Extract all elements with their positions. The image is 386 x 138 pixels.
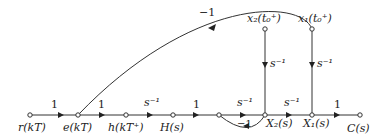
- gain-e-h: 1: [98, 98, 105, 111]
- gain-x2i-X2: s⁻¹: [270, 57, 286, 70]
- label-e: e(kT): [63, 121, 92, 134]
- gain-x1i-X1: s⁻¹: [317, 57, 333, 70]
- signal-flow-graph: r(kT) e(kT) h(kT⁺) H(s) X₂(s) X₁(s) C(s)…: [0, 0, 386, 138]
- node-C: [358, 113, 362, 117]
- node-x2-initial: [263, 27, 267, 31]
- arrow-icon: [193, 112, 199, 118]
- arrow-icon: [262, 62, 268, 68]
- node-H: [171, 113, 175, 117]
- node-r: [28, 113, 32, 117]
- label-H: H(s): [159, 121, 184, 134]
- label-X2: X₂(s): [265, 117, 292, 130]
- arrow-icon: [58, 112, 64, 118]
- label-r: r(kT): [18, 121, 46, 134]
- node-m: [217, 113, 221, 117]
- arrow-icon: [147, 112, 153, 118]
- arrow-icon: [99, 112, 105, 118]
- gain-X1-C: 1: [334, 98, 341, 111]
- gain-m-X2: s⁻¹: [237, 96, 253, 109]
- label-X1: X₁(s): [302, 117, 329, 130]
- arrow-icon: [208, 24, 216, 31]
- gain-X2-X1: s⁻¹: [284, 96, 300, 109]
- node-e: [76, 113, 80, 117]
- arrow-icon: [334, 112, 340, 118]
- gain-h-H: s⁻¹: [144, 96, 160, 109]
- arrow-icon: [309, 62, 315, 68]
- label-h: h(kT⁺): [108, 121, 143, 134]
- gain-X2-m: −1: [237, 118, 252, 129]
- label-C: C(s): [347, 122, 370, 135]
- gain-H-m: 1: [193, 98, 200, 111]
- node-x1-initial: [310, 27, 314, 31]
- label-x1-initial: x₁(t₀⁺): [298, 12, 332, 25]
- gain-r-e: 1: [51, 98, 58, 111]
- node-h: [124, 113, 128, 117]
- label-x2-initial: x₂(t₀⁺): [247, 12, 281, 25]
- gain-feedback: −1: [199, 6, 215, 19]
